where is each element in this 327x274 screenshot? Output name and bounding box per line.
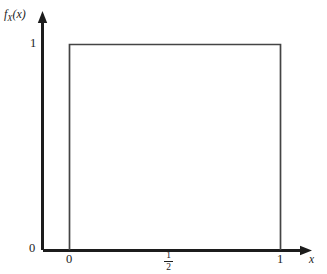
fraction-numerator: 1: [162, 251, 175, 261]
plot-canvas: [0, 0, 327, 274]
y-axis-arrowhead: [38, 11, 47, 23]
x-tick-label-0: 0: [66, 253, 72, 266]
y-tick-label-1: 1: [30, 37, 36, 50]
x-tick-label-one-half: 1 2: [162, 251, 175, 273]
y-axis-label: fX(x): [4, 8, 26, 22]
y-tick-label-0: 0: [29, 242, 35, 255]
x-axis-label: x: [309, 254, 314, 266]
fraction-denominator: 2: [162, 262, 175, 272]
y-axis-label-argument: (x): [13, 7, 26, 21]
uniform-pdf-figure: fX(x) 1 0 0 1 2 1 x: [0, 0, 327, 274]
x-tick-label-1: 1: [277, 253, 283, 266]
density-curve: [70, 45, 281, 251]
